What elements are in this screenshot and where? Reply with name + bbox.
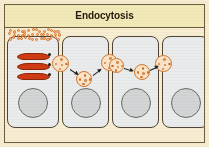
receptor-dot-1: [48, 53, 51, 56]
vesicle-cargo-dot: [142, 67, 145, 70]
page-title: Endocytosis: [75, 11, 133, 21]
vesicle-cargo-dot: [137, 71, 140, 74]
vesicle-cargo-dot: [82, 83, 85, 86]
receptor-dot-2: [48, 63, 51, 66]
ligand-dot: [42, 33, 45, 36]
vesicle-cargo-dot: [121, 65, 124, 68]
extracellular-ligand-cloud: [8, 28, 60, 42]
vesicle-cargo-dot: [147, 71, 150, 74]
vesicle-cargo-dot: [84, 79, 87, 82]
tissue-stage: [5, 28, 204, 142]
vesicle-cargo-dot: [142, 72, 145, 75]
nucleus-1: [18, 88, 48, 118]
vesicle-cargo-dot: [116, 61, 119, 64]
ligand-dot: [27, 29, 30, 32]
ligand-dot: [35, 38, 38, 41]
vesicle-cargo-dot: [115, 69, 118, 72]
vesicle-cargo-dot: [117, 66, 120, 69]
ligand-dot: [12, 36, 15, 39]
vesicle-cargo-dot: [164, 64, 167, 67]
cell-1: [7, 36, 59, 128]
endocytosis-figure: Endocytosis: [0, 0, 209, 147]
ligand-dot: [36, 33, 39, 36]
cell-3: [112, 36, 159, 128]
golgi-apparatus: [17, 53, 51, 83]
vesicle-cargo-dot: [168, 63, 171, 66]
vesicle-cargo-dot: [79, 78, 82, 81]
vesicle-cargo-dot: [55, 63, 58, 66]
golgi-cisterna-2: [17, 63, 50, 70]
vesicle-5: [134, 64, 150, 80]
ligand-dot: [8, 32, 11, 35]
vesicle-cargo-dot: [140, 76, 143, 79]
golgi-cisterna-1: [17, 53, 50, 60]
vesicle-cargo-dot: [163, 58, 166, 61]
ligand-dot: [20, 37, 23, 40]
ligand-dot: [42, 37, 45, 40]
vesicle-cargo-dot: [84, 74, 87, 77]
nucleus-3: [121, 88, 151, 118]
ligand-dot: [24, 36, 27, 39]
vesicle-cargo-dot: [162, 68, 165, 71]
figure-title-bar: Endocytosis: [5, 5, 204, 28]
vesicle-cargo-dot: [65, 63, 68, 66]
vesicle-cargo-dot: [89, 78, 92, 81]
ligand-dot: [17, 29, 20, 32]
ligand-dot: [58, 33, 61, 36]
nucleus-2: [71, 88, 101, 118]
vesicle-cargo-dot: [59, 68, 62, 71]
cell-4: [162, 36, 204, 128]
vesicle-cargo-dot: [60, 58, 63, 61]
ligand-dot: [49, 37, 52, 40]
vesicle-1: [52, 55, 69, 72]
receptor-dot-3: [48, 73, 51, 76]
ligand-dot: [57, 38, 60, 41]
vesicle-4: [109, 58, 124, 73]
golgi-cisterna-3: [17, 73, 50, 80]
vesicle-cargo-dot: [61, 64, 64, 67]
ligand-dot: [31, 38, 34, 41]
nucleus-4: [171, 88, 201, 118]
vesicle-cargo-dot: [104, 62, 107, 65]
vesicle-cargo-dot: [111, 65, 114, 68]
ligand-dot: [31, 33, 34, 36]
